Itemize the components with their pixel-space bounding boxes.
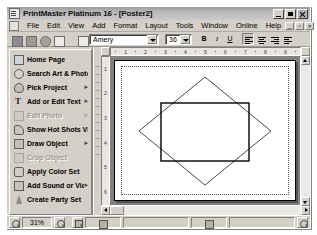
sidebar-item-search-art-photos[interactable]: Search Art & Photos xyxy=(10,66,91,80)
page-navigator-cell[interactable] xyxy=(85,217,121,228)
title-bar: PrintMaster Platinum 16 - [Poster2] xyxy=(7,7,310,20)
font-size-chevron-down-icon[interactable] xyxy=(180,35,190,44)
menu-bar: File Edit View Add Format Layout Tools W… xyxy=(7,20,310,32)
font-family-chevron-down-icon[interactable] xyxy=(147,35,157,44)
layers-panel-cell[interactable] xyxy=(123,217,189,228)
sidebar-item-add-or-edit-text[interactable]: Add or Edit Text ▸ xyxy=(10,94,91,108)
ruler-tick xyxy=(115,51,116,52)
strip-tick xyxy=(95,122,100,123)
mdi-document-icon[interactable] xyxy=(9,21,19,31)
page-setup-icon[interactable] xyxy=(75,33,88,46)
italic-button[interactable]: I xyxy=(211,33,223,45)
new-page-icon[interactable] xyxy=(51,33,64,46)
horizontal-scroll-thumb[interactable] xyxy=(110,206,124,215)
ruler-tick xyxy=(255,51,256,52)
fit-page-button[interactable] xyxy=(72,217,83,228)
ruler-end-corner xyxy=(301,47,310,56)
sidebar-item-home-page[interactable]: Home Page xyxy=(10,52,91,66)
ruler-label: 6 xyxy=(224,49,227,55)
save-icon[interactable] xyxy=(9,33,22,46)
sidebar-item-show-hot-shots-viewer[interactable]: Show Hot Shots Viewer xyxy=(10,122,91,136)
sidebar-item-label: Edit Photo xyxy=(27,111,84,120)
maximize-button[interactable] xyxy=(285,9,296,19)
minimize-button[interactable] xyxy=(273,9,284,19)
sidebar-item-submenu-arrow: ▸ xyxy=(84,97,91,105)
diamond-shape[interactable] xyxy=(139,77,271,185)
close-button[interactable] xyxy=(297,9,308,19)
strip-tick xyxy=(95,146,100,147)
scroll-left-arrow-icon[interactable] xyxy=(101,206,110,215)
horizontal-scroll-track[interactable] xyxy=(110,206,301,215)
sidebar-item-draw-object[interactable]: Draw Object ▸ xyxy=(10,136,91,150)
print-preview-icon[interactable] xyxy=(37,33,50,46)
menu-tools[interactable]: Tools xyxy=(172,21,198,31)
strip-tick xyxy=(95,106,100,107)
sidebar-item-pick-project[interactable]: Pick Project ▸ xyxy=(10,80,91,94)
menu-edit[interactable]: Edit xyxy=(43,21,64,31)
zoom-in-button[interactable] xyxy=(54,217,65,228)
align-left-button[interactable] xyxy=(242,33,254,45)
strip-tick xyxy=(95,66,100,67)
status-bar: 31% xyxy=(7,215,310,228)
sidebar-item-create-party-set[interactable]: Create Party Set xyxy=(10,192,91,206)
ruler-label: 1 xyxy=(104,67,107,72)
ruler-label: 7 xyxy=(244,49,247,55)
font-size-value: 36 xyxy=(166,35,180,44)
home-icon xyxy=(13,54,24,65)
mdi-close-button[interactable]: × xyxy=(305,22,314,30)
draw-object-icon xyxy=(13,138,24,149)
rectangle-shape[interactable] xyxy=(161,103,249,161)
sidebar-item-add-sound-or-video[interactable]: Add Sound or Video ▸ xyxy=(10,178,91,192)
menu-window[interactable]: Window xyxy=(197,21,232,31)
underline-button[interactable]: U xyxy=(224,33,236,45)
menu-layout[interactable]: Layout xyxy=(141,21,172,31)
ruler-label: 1 xyxy=(124,49,127,55)
horizontal-ruler[interactable]: 1 2 3 4 5 6 7 8 9 xyxy=(110,47,301,56)
help-button[interactable] xyxy=(297,217,308,228)
menu-format[interactable]: Format xyxy=(110,21,142,31)
ruler-label: 2 xyxy=(104,91,107,96)
ruler-corner-button[interactable] xyxy=(101,47,110,56)
mdi-minimize-button[interactable]: _ xyxy=(285,22,294,30)
align-justify-button[interactable] xyxy=(281,33,293,45)
font-family-combo[interactable]: Amery xyxy=(89,34,159,45)
vertical-scroll-track[interactable] xyxy=(301,65,310,197)
document-area: 1 2 3 4 5 6 7 8 9 xyxy=(101,47,310,215)
status-info-cell[interactable] xyxy=(191,217,227,228)
align-right-button[interactable] xyxy=(268,33,280,45)
scroll-down-arrow-icon[interactable] xyxy=(301,197,310,206)
vertical-ruler[interactable]: 1 2 3 4 5 6 xyxy=(101,56,110,206)
canvas-row: 1 2 3 4 5 6 xyxy=(101,56,310,206)
zoom-level-value[interactable]: 31% xyxy=(22,217,52,228)
strip-tick xyxy=(95,82,100,83)
sidebar-item-label: Apply Color Set xyxy=(27,167,88,176)
strip-tick xyxy=(95,138,100,139)
print-icon[interactable] xyxy=(23,33,36,46)
shape-layer xyxy=(115,61,295,199)
horizontal-scrollbar[interactable] xyxy=(101,206,310,215)
strip-tick xyxy=(95,114,100,115)
page-canvas[interactable] xyxy=(114,60,296,201)
mdi-restore-button[interactable]: ▫ xyxy=(295,22,304,30)
sidebar-item-submenu-arrow: ▸ xyxy=(84,181,91,189)
font-size-combo[interactable]: 36 xyxy=(165,34,192,45)
menu-view[interactable]: View xyxy=(64,21,88,31)
ruler-tick xyxy=(275,51,276,52)
menu-online[interactable]: Online xyxy=(232,21,262,31)
sidebar-item-label: Add or Edit Text xyxy=(27,97,84,106)
vertical-scrollbar[interactable] xyxy=(301,56,310,206)
sidebar-item-apply-color-set[interactable]: Apply Color Set xyxy=(10,164,91,178)
sidebar-item-label: Crop Object xyxy=(27,153,88,162)
menu-help[interactable]: Help xyxy=(262,21,285,31)
bold-button[interactable]: B xyxy=(198,33,210,45)
align-center-button[interactable] xyxy=(255,33,267,45)
scroll-right-arrow-icon[interactable] xyxy=(301,206,310,215)
zoom-out-button[interactable] xyxy=(9,217,20,228)
menu-file[interactable]: File xyxy=(23,21,43,31)
strip-tick xyxy=(95,74,100,75)
sidebar-item-label: Home Page xyxy=(27,55,88,64)
menu-add[interactable]: Add xyxy=(88,21,109,31)
scroll-up-arrow-icon[interactable] xyxy=(301,56,310,65)
sidebar-scroll-strip[interactable] xyxy=(93,47,101,215)
canvas-viewport[interactable] xyxy=(110,56,301,206)
